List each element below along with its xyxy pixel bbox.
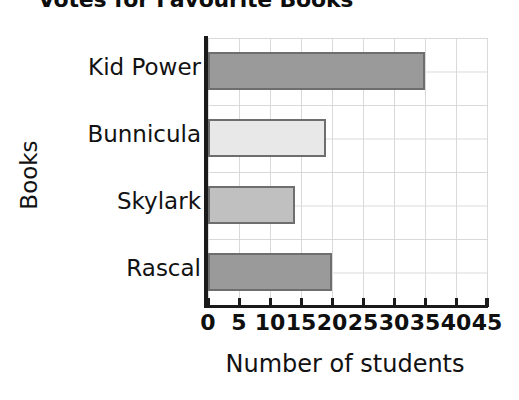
x-axis-title: Number of students — [180, 350, 510, 378]
y-axis-line — [204, 36, 208, 308]
y-axis-tick-label-kid-power: Kid Power — [11, 54, 201, 80]
x-axis-tick-mark — [207, 298, 210, 307]
y-axis-tick-label-skylark: Skylark — [11, 188, 201, 214]
y-axis-tick-label-bunnicula: Bunnicula — [11, 121, 201, 147]
bar-bunnicula[interactable] — [208, 119, 326, 157]
x-axis-tick-mark — [331, 298, 334, 307]
x-axis-tick-mark — [455, 298, 458, 307]
plot-area — [208, 38, 487, 306]
y-axis-tick-labels: Kid Power Bunnicula Skylark Rascal — [0, 0, 201, 400]
x-axis-tick-label: 45 — [467, 310, 507, 335]
x-axis-tick-mark — [486, 298, 489, 307]
x-axis-tick-mark — [300, 298, 303, 307]
y-axis-tick-label-rascal: Rascal — [11, 255, 201, 281]
x-axis-tick-mark — [238, 298, 241, 307]
x-axis-tick-mark — [269, 298, 272, 307]
x-axis-tick-mark — [393, 298, 396, 307]
bar-kid-power[interactable] — [208, 52, 425, 90]
x-axis-line — [204, 305, 488, 308]
bar-rascal[interactable] — [208, 253, 332, 291]
bar-skylark[interactable] — [208, 186, 295, 224]
plot-right-border — [487, 38, 488, 306]
x-axis-tick-mark — [362, 298, 365, 307]
x-axis-tick-mark — [424, 298, 427, 307]
